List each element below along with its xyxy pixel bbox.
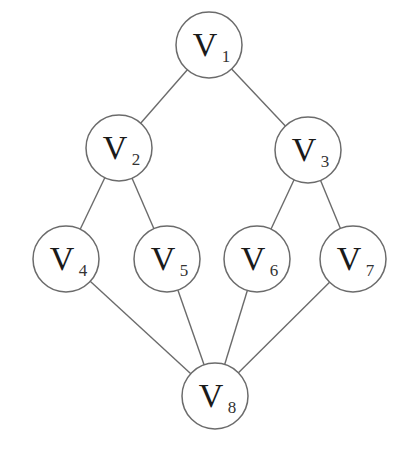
node-label: V <box>103 129 128 166</box>
node-v1: V1 <box>176 12 242 78</box>
node-v2: V2 <box>86 115 152 181</box>
node-v8: V8 <box>182 363 248 429</box>
edges-layer <box>66 45 353 396</box>
node-subscript: 5 <box>180 261 189 280</box>
node-subscript: 4 <box>79 261 88 280</box>
nodes-layer: V1V2V3V4V5V6V7V8 <box>33 12 386 429</box>
node-v7: V7 <box>320 226 386 292</box>
graph-diagram: V1V2V3V4V5V6V7V8 <box>0 0 408 450</box>
node-v3: V3 <box>275 117 341 183</box>
node-label: V <box>292 131 317 168</box>
node-subscript: 6 <box>270 261 279 280</box>
node-subscript: 8 <box>228 398 237 417</box>
node-v5: V5 <box>134 226 200 292</box>
node-v4: V4 <box>33 226 99 292</box>
node-label: V <box>241 240 266 277</box>
node-label: V <box>199 377 224 414</box>
node-label: V <box>151 240 176 277</box>
node-v6: V6 <box>224 226 290 292</box>
node-subscript: 2 <box>132 150 141 169</box>
node-subscript: 3 <box>321 152 330 171</box>
node-label: V <box>50 240 75 277</box>
node-label: V <box>337 240 362 277</box>
node-subscript: 1 <box>222 47 231 66</box>
node-label: V <box>193 26 218 63</box>
node-subscript: 7 <box>366 261 375 280</box>
